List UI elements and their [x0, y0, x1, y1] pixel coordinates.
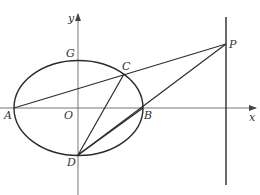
y-axis-label: y — [67, 12, 75, 25]
point-label-P: P — [228, 38, 237, 51]
figure-canvas: y x O G C P A B D — [0, 0, 260, 195]
point-label-A: A — [3, 109, 12, 122]
point-label-C: C — [122, 60, 131, 73]
point-label-B: B — [143, 109, 152, 122]
segment-DB — [78, 108, 143, 155]
point-label-G: G — [66, 47, 75, 60]
segment-AP — [14, 44, 226, 108]
point-label-O: O — [64, 109, 73, 122]
point-label-D: D — [66, 156, 76, 169]
ellipse-geometry-figure: y x O G C P A B D — [0, 0, 260, 195]
x-axis-label: x — [249, 111, 256, 124]
